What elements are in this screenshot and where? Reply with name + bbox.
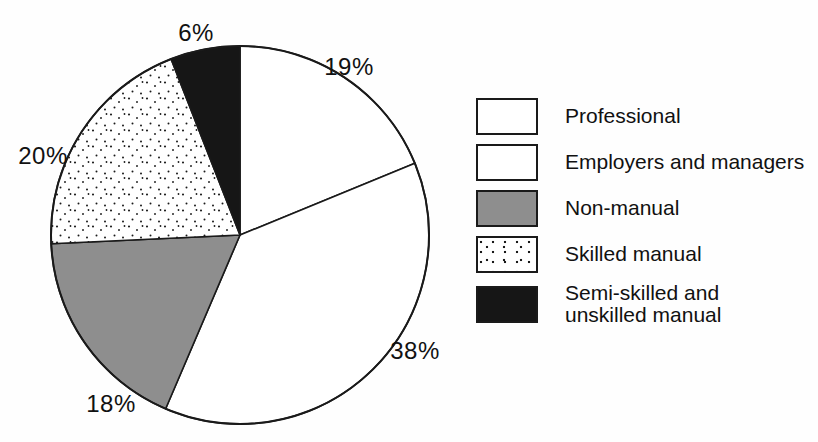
legend-label-professional: Professional	[565, 105, 681, 127]
pie-slices	[51, 46, 429, 424]
legend-item-professional: Professional	[476, 98, 804, 135]
legend-label-non-manual: Non-manual	[565, 197, 679, 219]
pie-percent-label-3: 20%	[18, 142, 68, 170]
legend-item-non-manual: Non-manual	[476, 190, 804, 227]
legend-label-employers-managers: Employers and managers	[565, 151, 804, 173]
legend-item-employers-managers: Employers and managers	[476, 144, 804, 181]
legend-label-skilled-manual: Skilled manual	[565, 243, 702, 265]
legend-swatch-employers-managers	[476, 144, 538, 181]
legend-label-semi-skilled-line2: unskilled manual	[565, 303, 721, 326]
pie-percent-label-4: 6%	[178, 19, 214, 47]
legend-item-skilled-manual: Skilled manual	[476, 236, 804, 273]
legend-swatch-professional	[476, 98, 538, 135]
pie-percent-label-2: 18%	[86, 390, 136, 418]
legend-item-semi-skilled: Semi-skilled andunskilled manual	[476, 282, 804, 326]
legend-swatch-non-manual	[476, 190, 538, 227]
legend-label-semi-skilled-line1: Semi-skilled and	[565, 281, 719, 304]
legend-swatch-skilled-manual	[476, 236, 538, 273]
pie-chart	[0, 0, 460, 442]
figure: 19%38%18%20%6% Professional Employers an…	[0, 0, 818, 442]
pie-chart-area: 19%38%18%20%6%	[0, 0, 460, 442]
legend-swatch-semi-skilled	[476, 286, 538, 323]
pie-percent-label-1: 38%	[390, 337, 440, 365]
pie-percent-label-0: 19%	[324, 53, 374, 81]
legend: Professional Employers and managers Non-…	[476, 98, 804, 326]
legend-label-semi-skilled: Semi-skilled andunskilled manual	[565, 282, 721, 326]
